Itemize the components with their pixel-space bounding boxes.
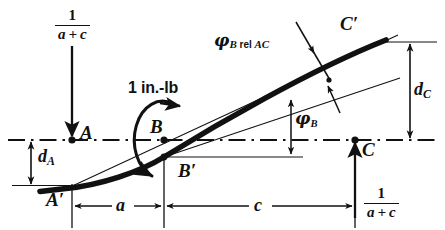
phi-symbol: φ (295, 108, 310, 128)
phi-rel-word: rel (237, 39, 255, 50)
label-phi-b-rel-ac: φB rel AC (214, 32, 269, 50)
label-point-A: A (80, 123, 93, 142)
phi-symbol-rel: φ (214, 30, 229, 50)
label-point-B-prime: B′ (178, 161, 196, 180)
node-dot-B (160, 136, 167, 143)
phi-subscript-b-rel: B (229, 38, 236, 50)
moment-arrow-head-top (160, 103, 180, 106)
phi-subscript-b: B (310, 118, 317, 129)
reaction-value: 1 a + c (364, 186, 399, 221)
label-d-a: dA (38, 147, 55, 168)
d-c-subscript: C (423, 87, 431, 101)
reaction-numerator: 1 (364, 186, 399, 203)
d-c-symbol: d (414, 79, 423, 99)
node-dot-A (68, 136, 75, 143)
label-dimension-c: c (254, 196, 262, 214)
applied-load-numerator: 1 (55, 8, 90, 25)
leader-arrow-tangent-line (328, 86, 340, 113)
label-point-C-prime: C′ (340, 14, 358, 33)
applied-load-value: 1 a + c (55, 8, 90, 43)
beam-deflection-figure: 1 a + c 1 a + c A B C A′ B′ C′ 1 in.-lb … (0, 0, 445, 230)
dimension-extension-lines (72, 141, 355, 228)
d-a-subscript: A (47, 154, 55, 168)
label-point-C: C (362, 140, 375, 159)
label-phi-b: φB (295, 110, 317, 130)
label-point-B: B (150, 117, 163, 136)
deflected-beam-curve (40, 40, 386, 192)
d-a-symbol: d (38, 146, 47, 166)
label-point-A-prime: A′ (46, 190, 64, 209)
label-moment-value: 1 in.-lb (128, 80, 178, 96)
label-d-c: dC (414, 80, 431, 101)
label-dimension-a: a (116, 196, 125, 214)
phi-rel-ac: AC (255, 38, 270, 50)
applied-load-denominator: a + c (55, 25, 90, 43)
reaction-denominator: a + c (364, 203, 399, 221)
